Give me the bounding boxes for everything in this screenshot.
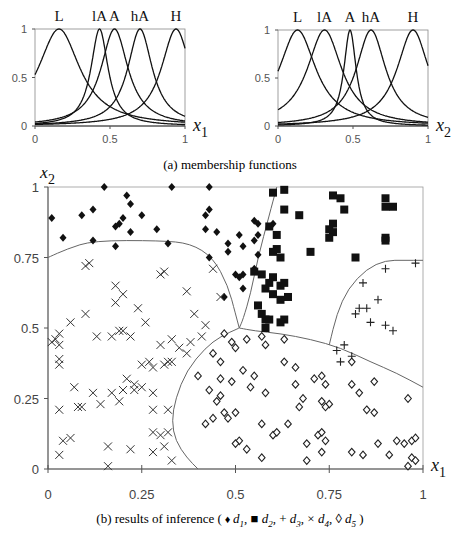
marker-d2-icon <box>329 191 337 199</box>
marker-d4-icon <box>55 330 63 338</box>
marker-d4-icon <box>104 442 112 450</box>
marker-d4-icon <box>112 282 120 290</box>
caption-b-suffix: ) <box>359 511 363 526</box>
marker-d4-icon <box>127 332 135 340</box>
marker-d5-icon <box>202 420 209 428</box>
marker-d3-icon <box>363 304 371 312</box>
marker-d2-icon <box>265 222 273 230</box>
marker-d2-icon <box>269 290 277 298</box>
mf-curve-lA <box>35 29 185 125</box>
y-tick-label: 0 <box>264 120 270 132</box>
legend-item-d5: ◊ d5 <box>332 511 359 526</box>
marker-d4-icon <box>142 318 150 326</box>
series-d5 <box>195 330 419 470</box>
marker-d1-icon <box>236 231 243 239</box>
marker-d4-icon <box>115 327 123 335</box>
marker-d2-icon <box>258 310 266 318</box>
y-tick-label: 1 <box>32 180 39 195</box>
marker-d5-icon <box>210 414 217 422</box>
marker-d4-icon <box>134 304 142 312</box>
marker-d1-icon <box>255 231 262 239</box>
marker-d5-icon <box>262 389 269 397</box>
marker-d4-icon <box>130 386 138 394</box>
marker-d2-icon <box>277 254 285 262</box>
marker-d1-icon <box>221 293 228 301</box>
marker-d5-icon <box>247 383 254 391</box>
marker-d5-icon <box>262 341 269 349</box>
marker-d5-icon <box>371 409 378 417</box>
inference-scatter-chart: 000.250.250.50.50.750.7511x1x2 <box>0 170 460 537</box>
y-tick-label: 1 <box>264 24 270 36</box>
marker-d1-icon <box>202 225 209 233</box>
marker-d1-icon <box>255 251 262 259</box>
marker-d5-icon <box>303 440 310 448</box>
x-tick-label: 0 <box>275 133 281 145</box>
marker-d4-icon <box>168 457 176 465</box>
marker-d4-icon <box>187 338 195 346</box>
legend-marker-icon: ■ <box>247 511 261 526</box>
marker-d2-icon <box>269 189 277 197</box>
marker-d4-icon <box>149 428 157 436</box>
marker-d4-icon <box>123 375 131 383</box>
marker-d4-icon <box>108 389 116 397</box>
y-tick-label: 0.75 <box>14 251 39 266</box>
marker-d5-icon <box>300 395 307 403</box>
decision-boundary <box>173 328 240 469</box>
y-tick-label: 0 <box>32 462 39 477</box>
marker-d5-icon <box>311 375 318 383</box>
marker-d2-icon <box>262 285 270 293</box>
marker-d2-icon <box>382 203 390 211</box>
legend-item-d1: ♦ d1, <box>222 511 247 526</box>
marker-d1-icon <box>48 214 55 222</box>
marker-d1-icon <box>165 239 172 247</box>
marker-d1-icon <box>206 183 213 191</box>
marker-d5-icon <box>348 381 355 389</box>
marker-d2-icon <box>325 234 333 242</box>
marker-d5-icon <box>217 358 224 366</box>
marker-d5-icon <box>258 454 265 462</box>
marker-d3-icon <box>367 318 375 326</box>
marker-d2-icon <box>280 186 288 194</box>
marker-d4-icon <box>78 403 86 411</box>
marker-d1-icon <box>202 211 209 219</box>
marker-d4-icon <box>138 361 146 369</box>
marker-d4-icon <box>52 335 60 343</box>
marker-d1-icon <box>90 206 97 214</box>
marker-d5-icon <box>285 420 292 428</box>
marker-d4-icon <box>119 327 127 335</box>
marker-d4-icon <box>157 270 165 278</box>
x-tick-label: 0.5 <box>102 133 117 145</box>
marker-d4-icon <box>145 358 153 366</box>
axis-label: x2 <box>435 115 451 140</box>
marker-d4-icon <box>149 448 157 456</box>
marker-d1-icon <box>225 239 232 247</box>
marker-d5-icon <box>243 335 250 343</box>
marker-d5-icon <box>360 451 367 459</box>
marker-d4-icon <box>82 262 90 270</box>
marker-d1-icon <box>251 237 258 245</box>
marker-d2-icon <box>254 301 262 309</box>
marker-d4-icon <box>55 361 63 369</box>
marker-d4-icon <box>112 299 120 307</box>
marker-d2-icon <box>277 296 285 304</box>
marker-d1-icon <box>90 237 97 245</box>
mf-label-lA: lA <box>317 9 332 25</box>
marker-d1-icon <box>225 248 232 256</box>
marker-d5-icon <box>206 386 213 394</box>
marker-d4-icon <box>119 386 127 394</box>
legend-item-d2: ■ d2, <box>247 511 276 526</box>
series-d1 <box>48 183 276 301</box>
mf-label-H: H <box>408 9 419 25</box>
marker-d4-icon <box>198 332 206 340</box>
mf-label-A: A <box>109 8 120 24</box>
marker-d5-icon <box>243 445 250 453</box>
mf-label-L: L <box>54 8 63 24</box>
marker-d1-icon <box>123 191 130 199</box>
marker-d5-icon <box>195 372 202 380</box>
marker-d4-icon <box>67 434 75 442</box>
caption-b: (b) results of inference ( ♦ d1, ■ d2, +… <box>0 511 460 529</box>
marker-d1-icon <box>101 183 108 191</box>
marker-d1-icon <box>127 200 134 208</box>
mf-label-hA: hA <box>362 9 381 25</box>
y-tick-label: 0.5 <box>12 72 27 84</box>
